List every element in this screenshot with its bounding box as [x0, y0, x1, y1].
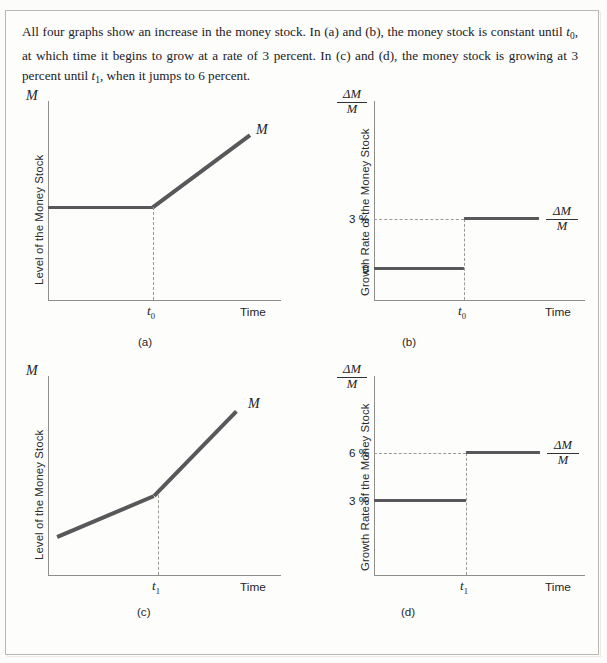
panel-d-6pct-guide-line — [374, 453, 466, 454]
panel-b-y-axis-title-numerator: ΔM — [337, 88, 367, 103]
panel-d-series-6pct-segment — [466, 451, 540, 454]
panel-b-x-axis-label: Time — [545, 305, 571, 319]
panel-a-t0-marker: t0 — [147, 303, 155, 321]
panel-c-y-axis — [48, 376, 49, 575]
caption-line-3-part-2: , when it jumps to 6 percent. — [100, 68, 250, 83]
panel-a-x-axis-label: Time — [240, 305, 266, 319]
panel-c-t1-guide-line — [158, 495, 159, 575]
panel-a-x-axis — [48, 300, 281, 301]
panel-d-y-axis-title: ΔM M — [337, 363, 367, 391]
panel-d-y-axis-label: Growth Rate of the Money Stock — [359, 403, 371, 571]
panel-a-series-label: M — [256, 122, 268, 138]
panel-c-x-axis-label: Time — [240, 580, 266, 594]
panel-d-y-axis-title-numerator: ΔM — [337, 363, 367, 378]
panel-d-ytick-3pct: 3 % — [327, 494, 369, 507]
panel-a-y-axis-title: M — [26, 88, 38, 104]
panel-d-series-label: ΔM M — [547, 439, 579, 467]
panel-b-caption: (b) — [402, 335, 416, 348]
panel-d-series-label-denominator: M — [547, 454, 579, 468]
panel-c-series-label: M — [248, 396, 260, 412]
panel-d-t1-marker: t1 — [460, 578, 468, 596]
panel-c-t1-marker: t1 — [152, 578, 160, 596]
panel-a-caption: (a) — [138, 335, 152, 348]
panel-a-y-axis — [48, 101, 49, 301]
figure-page: All four graphs show an increase in the … — [0, 0, 607, 663]
panel-a-y-axis-label: Level of the Money Stock — [33, 155, 45, 285]
panel-d-y-axis — [374, 376, 375, 575]
panel-b-3pct-guide-line — [374, 219, 464, 220]
panel-d-x-axis-label: Time — [545, 580, 571, 594]
panel-d-y-axis-title-denominator: M — [337, 378, 367, 392]
panel-b-series-zero-segment — [374, 267, 464, 270]
panel-b-y-axis-title-denominator: M — [337, 103, 367, 117]
caption-line-2-part-1: until — [538, 24, 566, 39]
panel-d-series-label-numerator: ΔM — [547, 439, 579, 454]
panel-d-x-axis — [374, 575, 585, 576]
panel-d-series-3pct-segment — [374, 499, 466, 502]
panel-b-t0-marker: t0 — [458, 303, 466, 321]
panel-a-series-flat-segment — [48, 206, 154, 209]
panel-b-x-axis — [374, 300, 585, 301]
panel-b-ytick-zero: 0 — [327, 262, 369, 275]
panel-c-x-axis — [48, 575, 281, 576]
panel-c-y-axis-title: M — [26, 363, 38, 379]
panel-d-t1-guide-line — [466, 453, 467, 575]
panel-b-series-label-numerator: ΔM — [546, 205, 578, 220]
panel-c-caption: (c) — [137, 605, 151, 618]
panel-b-series-label: ΔM M — [546, 205, 578, 233]
panel-b-y-axis — [374, 101, 375, 301]
panel-d-caption: (d) — [401, 605, 415, 618]
panel-b-y-axis-title: ΔM M — [337, 88, 367, 116]
panel-a-t0-guide-line — [153, 207, 154, 300]
panel-b-series-3pct-segment — [464, 217, 539, 220]
panel-d-ytick-6pct: 6 % — [327, 446, 369, 459]
figure-caption: All four graphs show an increase in the … — [22, 22, 578, 90]
page-frame — [5, 10, 599, 655]
panel-b-series-label-denominator: M — [546, 220, 578, 234]
panel-c-y-axis-label: Level of the Money Stock — [33, 430, 45, 560]
panel-b-t0-guide-line — [464, 219, 465, 300]
caption-line-1: All four graphs show an increase in the … — [22, 24, 535, 39]
panel-b-ytick-3pct: 3 % — [327, 212, 369, 225]
